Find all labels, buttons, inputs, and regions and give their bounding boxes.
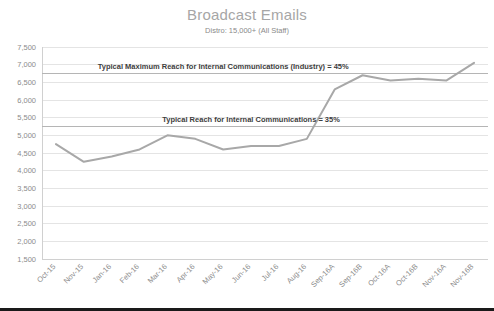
y-axis-tick-label: 6,000 — [17, 96, 36, 105]
x-axis-tick-label: Oct-16B — [394, 262, 420, 288]
x-axis-tick-label: Jan-16 — [91, 262, 114, 285]
x-axis-tick-label: Feb-16 — [118, 262, 141, 285]
y-axis-tick-label: 5,000 — [17, 131, 36, 140]
x-axis-tick-label: Mar-16 — [146, 262, 169, 285]
x-axis-tick-label: May-16 — [201, 262, 225, 286]
line-chart-plot: 7,5007,0006,5006,0005,5005,0004,5004,000… — [0, 0, 494, 311]
y-axis-tick-label: 7,500 — [17, 43, 36, 52]
y-axis-tick-label: 5,500 — [17, 113, 36, 122]
y-axis-tick-label: 1,500 — [17, 255, 36, 264]
x-axis-tick-label: Nov-16B — [448, 262, 475, 289]
y-axis-tick-label: 3,000 — [17, 202, 36, 211]
y-axis-tick-labels: 7,5007,0006,5006,0005,5005,0004,5004,000… — [17, 43, 36, 264]
x-axis-tick-label: Oct-15 — [35, 262, 57, 284]
y-axis-tick-label: 4,000 — [17, 166, 36, 175]
x-axis-tick-labels: Oct-15Nov-15Jan-16Feb-16Mar-16Apr-16May-… — [35, 262, 475, 289]
y-axis-tick-label: 3,500 — [17, 184, 36, 193]
x-axis-tick-label: Sep-16A — [309, 262, 336, 289]
y-axis-tick-label: 4,500 — [17, 149, 36, 158]
reference-line-label: Typical Maximum Reach for Internal Commu… — [98, 62, 349, 71]
y-axis-tick-label: 2,000 — [17, 237, 36, 246]
chart-screenshot: Broadcast Emails Distro: 15,000+ (All St… — [0, 0, 494, 311]
series-line — [56, 63, 474, 162]
x-axis-tick-label: Aug-16 — [285, 262, 308, 285]
x-axis-tick-label: Sep-16B — [337, 262, 364, 289]
y-axis-tick-label: 7,000 — [17, 60, 36, 69]
x-axis-tick-label: Jun-16 — [230, 262, 253, 285]
reference-line-labels: Typical Maximum Reach for Internal Commu… — [98, 62, 349, 124]
x-axis-tick-label: Oct-16A — [366, 262, 392, 288]
y-axis-tick-label: 6,500 — [17, 78, 36, 87]
x-axis-tick-label: Apr-16 — [174, 262, 196, 284]
reference-line-label: Typical Reach for Internal Communication… — [162, 115, 340, 124]
y-axis-tick-label: 2,500 — [17, 219, 36, 228]
data-series — [56, 63, 474, 162]
x-axis-tick-label: Nov-16A — [421, 262, 448, 289]
x-axis-tick-label: Jul-16 — [260, 262, 281, 283]
x-axis-tick-label: Nov-15 — [62, 262, 85, 285]
